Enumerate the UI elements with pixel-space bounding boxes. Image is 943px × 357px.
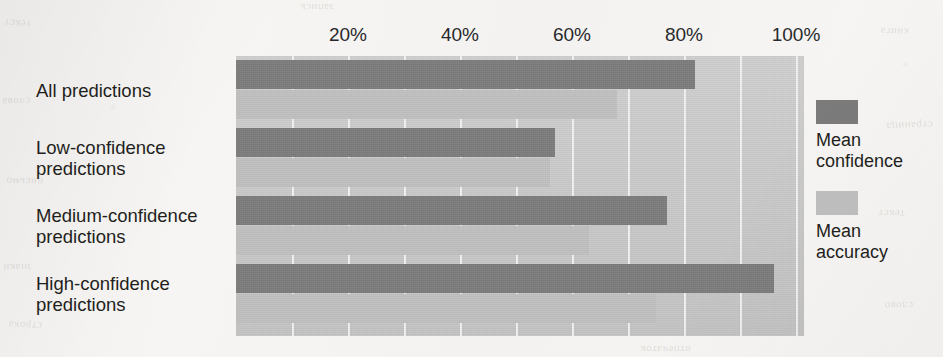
plot-area xyxy=(236,56,804,336)
page-bleed-mark: текст xyxy=(4,17,32,30)
chart-legend: Mean confidenceMean accuracy xyxy=(816,100,934,282)
legend-swatch-accuracy xyxy=(816,191,858,215)
page-bleed-mark: знаки xyxy=(3,262,32,275)
legend-swatch-confidence xyxy=(816,100,858,124)
y-axis-category-labels: All predictionsLow-confidence prediction… xyxy=(36,56,232,336)
legend-label: Mean confidence xyxy=(816,130,934,172)
legend-entry: Mean confidence xyxy=(816,100,934,172)
bar-accuracy xyxy=(236,90,617,119)
gridline xyxy=(796,56,798,336)
page-bleed-mark: книга xyxy=(880,26,909,39)
category-label: All predictions xyxy=(36,80,236,101)
page-bleed-mark: отпечаток xyxy=(640,344,691,356)
page-bleed-mark: запись xyxy=(300,2,334,14)
bar-confidence xyxy=(236,196,667,225)
bar-accuracy xyxy=(236,226,589,255)
gridline xyxy=(740,56,742,336)
bar-chart-figure: текст слова письмо знаки строка книга ст… xyxy=(0,0,943,357)
bar-accuracy xyxy=(236,158,550,187)
page-bleed-mark: слова xyxy=(2,96,31,109)
category-label: Low-confidence predictions xyxy=(36,137,236,179)
bar-confidence xyxy=(236,128,555,157)
x-tick-label: 100% xyxy=(772,24,821,46)
bar-confidence xyxy=(236,264,774,293)
category-label: Medium-confidence predictions xyxy=(36,205,236,247)
page-bleed-mark: слово xyxy=(884,300,913,313)
legend-label: Mean accuracy xyxy=(816,221,934,263)
x-tick-label: 60% xyxy=(553,24,591,46)
x-tick-label: 80% xyxy=(665,24,703,46)
bar-confidence xyxy=(236,60,695,89)
x-tick-label: 40% xyxy=(441,24,479,46)
x-axis-tick-labels: 20%40%60%80%100% xyxy=(236,24,796,50)
x-tick-label: 20% xyxy=(329,24,367,46)
legend-entry: Mean accuracy xyxy=(816,191,934,263)
category-label: High-confidence predictions xyxy=(36,273,236,315)
gridline xyxy=(684,56,686,336)
bar-accuracy xyxy=(236,294,656,323)
